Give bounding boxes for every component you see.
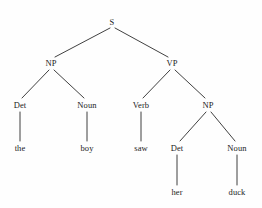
tree-node-saw: saw (134, 143, 148, 153)
tree-node-det2: Det (171, 143, 184, 153)
tree-node-her: her (171, 187, 182, 197)
syntax-tree-diagram: SNPVPDetNounVerbNPtheboysawDetNounherduc… (0, 0, 262, 208)
tree-edge-np1-to-noun1 (54, 70, 84, 98)
tree-node-np1: NP (45, 58, 56, 68)
tree-node-duck: duck (229, 187, 246, 197)
tree-node-vp: VP (166, 58, 177, 68)
tree-edge-s-to-vp (115, 28, 168, 57)
tree-edge-s-to-np1 (55, 28, 110, 57)
tree-edge-np2-to-det2 (180, 112, 206, 141)
tree-node-noun2: Noun (227, 143, 246, 153)
tree-edges-layer (0, 0, 262, 208)
tree-node-boy: boy (80, 143, 93, 153)
tree-edge-np1-to-det1 (22, 70, 49, 98)
tree-node-the: the (15, 143, 26, 153)
tree-node-np2: NP (202, 100, 213, 110)
tree-edge-vp-to-np2 (175, 70, 205, 98)
tree-edge-vp-to-verb (143, 70, 170, 98)
tree-node-det1: Det (14, 100, 27, 110)
tree-node-verb: Verb (133, 100, 149, 110)
tree-edge-np2-to-noun2 (211, 112, 235, 141)
tree-node-s: S (110, 17, 115, 27)
tree-node-noun1: Noun (77, 100, 96, 110)
